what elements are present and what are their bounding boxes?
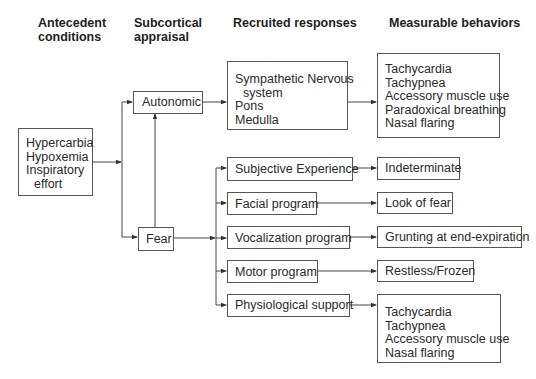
antecedent-conditions-box: Hypercarbia Hypoxemia Inspiratory effort	[18, 128, 93, 196]
restless-frozen-label: Restless/Frozen	[385, 265, 473, 279]
behavior-tachypnea: Tachypnea	[385, 320, 500, 334]
condition-effort: effort	[26, 178, 92, 192]
subjective-experience-box: Subjective Experience	[227, 157, 353, 181]
facial-label: Facial program	[235, 198, 316, 212]
motor-program-box: Motor program	[227, 260, 318, 283]
vocalization-label: Vocalization program	[235, 232, 349, 246]
grunting-label: Grunting at end-expiration	[385, 231, 521, 245]
behavior-tachycardia: Tachycardia	[385, 306, 500, 320]
condition-inspiratory: Inspiratory	[26, 164, 92, 178]
pons-line: Pons	[235, 100, 347, 114]
fear-box: Fear	[138, 227, 174, 251]
sympathetic-nervous-system-box: Sympathetic Nervous system Pons Medulla	[227, 61, 348, 130]
behavior-paradoxical-breathing: Paradoxical breathing	[385, 104, 499, 118]
autonomic-box: Autonomic	[133, 91, 203, 114]
grunting-box: Grunting at end-expiration	[377, 226, 522, 248]
behavior-nasal-flaring: Nasal flaring	[385, 117, 499, 131]
physiological-support-box: Physiological support	[227, 294, 350, 317]
sympathetic-line: Sympathetic Nervous	[235, 73, 347, 87]
fear-label: Fear	[146, 233, 173, 247]
behavior-tachycardia: Tachycardia	[385, 63, 499, 77]
behavior-accessory-muscle-use: Accessory muscle use	[385, 90, 499, 104]
look-of-fear-label: Look of fear	[385, 197, 452, 211]
behavior-tachypnea: Tachypnea	[385, 77, 499, 91]
subjective-label: Subjective Experience	[235, 163, 352, 177]
physiological-label: Physiological support	[235, 299, 349, 313]
autonomic-label: Autonomic	[142, 96, 202, 110]
physiological-behaviors-box: Tachycardia Tachypnea Accessory muscle u…	[377, 294, 501, 363]
indeterminate-box: Indeterminate	[377, 157, 460, 180]
facial-program-box: Facial program	[227, 192, 317, 215]
behavior-nasal-flaring: Nasal flaring	[385, 347, 500, 361]
condition-hypoxemia: Hypoxemia	[26, 151, 92, 165]
restless-frozen-box: Restless/Frozen	[377, 260, 474, 282]
condition-hypercarbia: Hypercarbia	[26, 137, 92, 151]
indeterminate-label: Indeterminate	[385, 162, 459, 176]
motor-label: Motor program	[235, 266, 317, 280]
autonomic-behaviors-box: Tachycardia Tachypnea Accessory muscle u…	[377, 53, 500, 138]
medulla-line: Medulla	[235, 114, 347, 128]
behavior-accessory-muscle-use: Accessory muscle use	[385, 333, 500, 347]
look-of-fear-box: Look of fear	[377, 192, 453, 214]
vocalization-program-box: Vocalization program	[227, 226, 350, 249]
system-line: system	[235, 87, 347, 101]
